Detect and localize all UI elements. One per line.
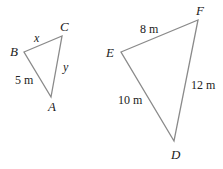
side-label-bc: x — [33, 31, 40, 45]
triangle-def — [121, 20, 198, 141]
vertex-label-e: E — [105, 45, 114, 60]
diagram-canvas: B C A x y 5 m E F D 8 m 12 m 10 m — [0, 0, 223, 169]
triangles-figure: B C A x y 5 m E F D 8 m 12 m 10 m — [0, 0, 223, 169]
triangle-abc — [24, 36, 62, 97]
side-label-de: 10 m — [118, 93, 143, 107]
side-label-ca: y — [62, 60, 69, 74]
vertex-label-b: B — [10, 44, 18, 59]
vertex-label-f: F — [195, 3, 205, 18]
side-label-fd: 12 m — [191, 78, 216, 92]
side-label-ef: 8 m — [140, 22, 159, 36]
vertex-label-d: D — [170, 147, 181, 162]
vertex-label-c: C — [60, 19, 69, 34]
vertex-label-a: A — [47, 99, 56, 114]
side-label-ab: 5 m — [15, 73, 34, 87]
